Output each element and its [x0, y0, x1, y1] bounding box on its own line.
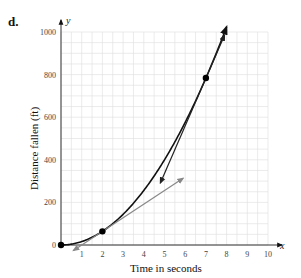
y-tick-label: 200: [44, 198, 56, 207]
y-tick-label: 0: [52, 241, 56, 250]
y-axis-title: Distance fallen (ft): [28, 107, 40, 190]
y-tick-label: 800: [44, 71, 56, 80]
y-tick-label: 600: [44, 113, 56, 122]
x-axis-name: x: [279, 240, 285, 251]
y-tick-label: 1000: [40, 28, 56, 37]
x-tick-label: 6: [183, 250, 187, 259]
data-point: [203, 75, 209, 81]
data-point: [58, 242, 64, 248]
data-point: [99, 228, 105, 234]
y-tick-label: 400: [44, 156, 56, 165]
y-axis-name: y: [65, 15, 71, 26]
x-tick-label: 9: [245, 250, 249, 259]
x-tick-label: 7: [204, 250, 208, 259]
x-tick-label: 10: [264, 250, 272, 259]
x-tick-label: 5: [163, 250, 167, 259]
x-tick-label: 2: [100, 250, 104, 259]
x-tick-label: 8: [225, 250, 229, 259]
tangent-line-t7: [160, 35, 224, 183]
chart-canvas: yx1234567891002004006008001000: [0, 0, 301, 278]
x-tick-label: 4: [142, 250, 146, 259]
tangent-line-t2: [73, 178, 183, 250]
x-tick-label: 1: [80, 250, 84, 259]
x-tick-label: 3: [121, 250, 125, 259]
x-axis-title: Time in seconds: [130, 262, 202, 274]
